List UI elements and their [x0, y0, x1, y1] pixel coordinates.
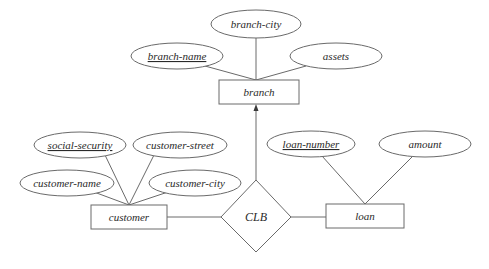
attribute-branch-name[interactable]: branch-name [131, 43, 223, 69]
attribute-amount[interactable]: amount [379, 131, 471, 157]
attribute-branch-city[interactable]: branch-city [211, 10, 301, 38]
attribute-label: assets [323, 50, 349, 62]
attribute-label: customer-street [146, 139, 215, 151]
attribute-label: branch-city [231, 18, 282, 30]
assets-link [256, 66, 306, 80]
arrowhead-icon [254, 104, 259, 111]
attribute-label-key: branch-name [148, 50, 207, 62]
entity-customer[interactable]: customer [91, 205, 167, 229]
entity-loan[interactable]: loan [326, 204, 404, 228]
branch-name-link [205, 66, 256, 80]
attribute-label-key: loan-number [283, 138, 341, 150]
attribute-customer-street[interactable]: customer-street [133, 132, 227, 158]
attribute-loan-number[interactable]: loan-number [267, 131, 355, 157]
entity-label: customer [109, 211, 150, 223]
attribute-social-security[interactable]: social-security [34, 132, 126, 158]
loan-number-link [322, 156, 365, 204]
amount-link [365, 157, 412, 204]
attribute-customer-city[interactable]: customer-city [149, 170, 241, 196]
attribute-label-key: social-security [48, 139, 113, 151]
entity-label: branch [243, 86, 275, 98]
attribute-customer-name[interactable]: customer-name [20, 170, 114, 196]
entity-label: loan [355, 210, 375, 222]
attribute-assets[interactable]: assets [290, 43, 382, 69]
attribute-label: customer-name [33, 177, 101, 189]
attribute-label: amount [409, 138, 443, 150]
attribute-label: customer-city [165, 177, 225, 189]
relationship-label: CLB [245, 210, 268, 224]
entity-branch[interactable]: branch [219, 80, 299, 104]
